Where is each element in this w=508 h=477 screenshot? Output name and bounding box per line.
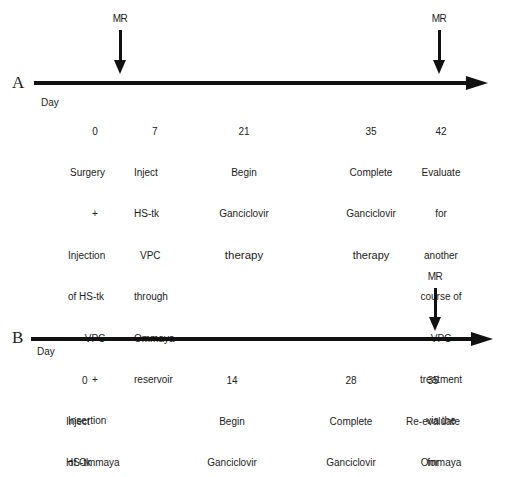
event-text-line: Ganciclovir — [204, 207, 284, 221]
panel-b-mr-label-1: MR — [420, 271, 450, 282]
event-day-number: 35 — [336, 125, 406, 139]
panel-b-mr-arrow-1-icon — [434, 288, 437, 318]
event-day-number: 7 — [134, 125, 184, 139]
event-text-line: therapy — [204, 249, 284, 263]
event-text-line: Surgery — [68, 166, 122, 180]
event-day-number: 0 — [68, 125, 122, 139]
panel-b-event-day-28: 28 Complete Ganciclovir therapy — [316, 346, 386, 477]
panel-a-mr-label-2: MR — [424, 13, 454, 24]
event-day-number: 21 — [204, 125, 284, 139]
event-text-line: + — [68, 207, 122, 221]
event-text-line: another — [411, 249, 471, 263]
panel-b-timeline-axis — [31, 337, 479, 341]
panel-a-day-label: Day — [41, 97, 59, 108]
panel-a-timeline-axis — [34, 81, 474, 85]
panel-b-event-day-14: 14 Begin Ganciclovir therapy — [192, 346, 272, 477]
event-text-line: through — [134, 290, 184, 304]
event-text-line: Re-evaluate — [400, 415, 466, 429]
event-text-line: Ganciclovir — [336, 207, 406, 221]
event-text-line: Ganciclovir — [192, 456, 272, 470]
event-text-line: Begin — [192, 415, 272, 429]
event-text-line: VPC — [134, 249, 184, 263]
panel-a-axis-arrowhead-icon — [466, 76, 488, 90]
event-text-line: Injection — [68, 249, 122, 263]
event-day-number: 0 — [66, 374, 116, 388]
event-text-line: reservoir — [134, 373, 184, 387]
event-text-line: Complete — [336, 166, 406, 180]
event-text-line: course of — [411, 290, 471, 304]
event-text-line: Complete — [316, 415, 386, 429]
panel-b-label: B — [12, 328, 23, 348]
event-text-line: for — [400, 456, 466, 470]
event-text-line: HS-tk — [66, 456, 116, 470]
panel-a-mr-arrow-2-icon — [438, 30, 441, 60]
panel-a-mr-arrowhead-1-icon — [114, 60, 126, 74]
panel-b-event-day-35: 35 Re-evaluate for another course of tre… — [400, 346, 466, 477]
panel-a-event-day-21: 21 Begin Ganciclovir therapy — [204, 97, 284, 290]
event-text-line: Inject — [134, 166, 184, 180]
event-text-line: Ganciclovir — [316, 456, 386, 470]
panel-a-event-day-35: 35 Complete Ganciclovir therapy — [336, 97, 406, 290]
event-text-line: for — [411, 207, 471, 221]
panel-a-event-day-7: 7 Inject HS-tk VPC through Ommaya reserv… — [134, 97, 184, 414]
event-day-number: 28 — [316, 374, 386, 388]
event-text-line: HS-tk — [134, 207, 184, 221]
event-day-number: 42 — [411, 125, 471, 139]
event-day-number: 35 — [400, 374, 466, 388]
panel-a-mr-arrowhead-2-icon — [433, 60, 445, 74]
event-text-line: Begin — [204, 166, 284, 180]
panel-a-mr-label-1: MR — [105, 13, 135, 24]
event-text-line: Evaluate — [411, 166, 471, 180]
panel-b-day-label: Day — [37, 346, 55, 357]
panel-b-axis-arrowhead-icon — [471, 332, 493, 346]
panel-b-mr-arrowhead-1-icon — [429, 317, 441, 331]
panel-a-mr-arrow-1-icon — [119, 30, 122, 60]
event-text-line: therapy — [336, 249, 406, 263]
event-text-line: Inject — [66, 415, 116, 429]
event-text-line: of HS-tk — [68, 290, 122, 304]
panel-a-label: A — [12, 73, 24, 93]
event-day-number: 14 — [192, 374, 272, 388]
panel-b-event-day-0: 0 Inject HS-tk VPC through Ommaya reserv… — [66, 346, 116, 477]
